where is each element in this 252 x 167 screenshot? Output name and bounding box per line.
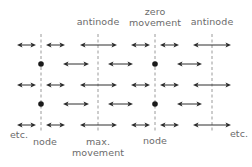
bottom-label-etc-right: etc. <box>230 129 248 139</box>
node-particle-dot <box>152 101 158 107</box>
top-label-antinode-2: antinode <box>191 17 234 27</box>
double-arrow-icon <box>46 122 65 127</box>
antinode-label: antinode <box>191 16 234 27</box>
double-arrow-icon <box>17 42 36 47</box>
node-particle-dot <box>38 61 44 67</box>
bottom-label-node-2: node <box>143 136 167 146</box>
double-arrow-icon <box>63 101 89 106</box>
double-arrow-icon <box>46 82 65 87</box>
node-particle-dot <box>152 61 158 67</box>
node-particle-dot <box>38 101 44 107</box>
double-arrow-icon <box>17 82 36 87</box>
antinode-label: antinode <box>77 16 120 27</box>
double-arrow-icon <box>160 122 179 127</box>
double-arrow-icon <box>108 101 133 106</box>
movement-label: movement <box>129 18 181 28</box>
bottom-label-etc-left: etc. <box>10 130 28 140</box>
double-arrow-icon <box>160 42 179 47</box>
double-arrow-icon <box>177 101 202 106</box>
top-label-zero-movement: zero movement <box>129 7 181 28</box>
double-arrow-icon <box>80 82 117 87</box>
double-arrow-icon <box>193 82 231 87</box>
top-label-antinode-1: antinode <box>77 17 120 27</box>
double-arrow-icon <box>131 82 150 87</box>
double-arrow-icon <box>177 61 202 66</box>
bottom-label-max: max. <box>86 137 110 147</box>
double-arrow-icon <box>131 122 150 127</box>
double-arrow-icon <box>46 42 65 47</box>
standing-wave-diagram: antinode zero movement antinode etc. nod… <box>0 0 252 167</box>
double-arrow-icon <box>17 122 36 127</box>
bottom-label-node-1: node <box>33 137 57 147</box>
double-arrow-icon <box>160 82 179 87</box>
double-arrow-icon <box>63 61 89 66</box>
double-arrow-icon <box>131 42 150 47</box>
bottom-label-movement: movement <box>72 148 124 158</box>
zero-label: zero <box>129 7 181 17</box>
double-arrow-icon <box>108 61 133 66</box>
